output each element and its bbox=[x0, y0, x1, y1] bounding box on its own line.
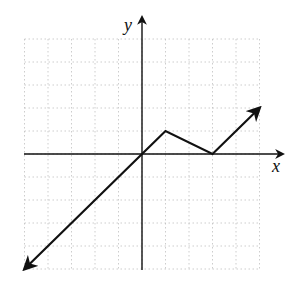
x-axis-label: x bbox=[271, 156, 280, 176]
coordinate-plane: x y bbox=[0, 0, 294, 286]
y-axis-label: y bbox=[122, 15, 132, 35]
